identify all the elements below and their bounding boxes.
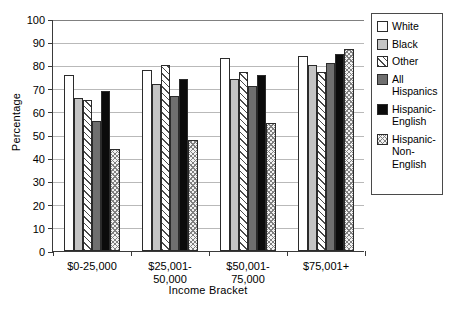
y-axis-title: Percentage — [10, 62, 22, 182]
bar — [83, 100, 92, 251]
bar — [248, 86, 257, 251]
legend-label: Hispanic- English — [392, 103, 436, 128]
bar — [344, 49, 353, 251]
y-axis-tick-label: 50 — [33, 131, 45, 142]
bar — [74, 98, 83, 251]
bar — [335, 54, 344, 251]
bar — [298, 56, 307, 251]
y-axis-tick-label: 10 — [33, 224, 45, 235]
legend-label: White — [392, 20, 419, 33]
bar-group — [53, 20, 131, 251]
y-axis-tick-label: 30 — [33, 177, 45, 188]
y-axis-tick-label: 0 — [39, 247, 45, 258]
legend-item: Other — [377, 55, 438, 68]
x-axis-tick — [287, 251, 288, 256]
legend-item: White — [377, 20, 438, 33]
bar — [230, 79, 239, 251]
bar-group — [287, 20, 365, 251]
x-axis-title: Income Bracket — [52, 284, 364, 296]
bar-chart-figure: Percentage 0102030405060708090100$0-25,0… — [0, 0, 449, 309]
y-axis-tick-label: 20 — [33, 201, 45, 212]
bar — [188, 140, 197, 251]
bar — [308, 65, 317, 251]
legend-swatch — [377, 74, 388, 85]
y-axis-tick-label: 90 — [33, 38, 45, 49]
y-axis-tick-label: 100 — [27, 15, 45, 26]
legend-swatch — [377, 39, 388, 50]
x-axis-category-label: $25,001- 50,000 — [131, 260, 209, 286]
bar — [257, 75, 266, 251]
legend: WhiteBlackOtherAll HispanicsHispanic- En… — [371, 13, 443, 195]
legend-item: Black — [377, 38, 438, 51]
y-axis-tick-label: 60 — [33, 108, 45, 119]
bar — [239, 72, 248, 251]
bar — [64, 75, 73, 251]
plot-inner: 0102030405060708090100$0-25,000$25,001- … — [53, 20, 364, 251]
bar-group — [209, 20, 287, 251]
legend-label: Hispanic- Non- English — [392, 133, 436, 171]
legend-swatch — [377, 134, 388, 145]
bar — [326, 63, 335, 251]
legend-item: Hispanic- English — [377, 103, 438, 128]
x-axis-tick — [131, 251, 132, 256]
legend-swatch — [377, 21, 388, 32]
y-axis-tick-label: 80 — [33, 61, 45, 72]
legend-label: Other — [392, 55, 418, 68]
bar — [317, 72, 326, 251]
bar-group — [131, 20, 209, 251]
x-axis-tick — [53, 251, 54, 256]
bar — [179, 79, 188, 251]
bar — [152, 84, 161, 251]
x-axis-category-label: $0-25,000 — [53, 260, 131, 273]
y-axis-tick-label: 70 — [33, 85, 45, 96]
legend-swatch — [377, 104, 388, 115]
x-axis-category-label: $75,001+ — [287, 260, 365, 273]
bar — [161, 65, 170, 251]
bar — [170, 96, 179, 251]
legend-swatch — [377, 56, 388, 67]
legend-label: Black — [392, 38, 418, 51]
bar — [92, 121, 101, 251]
bar — [101, 91, 110, 251]
x-axis-tick — [365, 251, 366, 256]
legend-label: All Hispanics — [392, 73, 438, 98]
x-axis-category-label: $50,001- 75,000 — [209, 260, 287, 286]
x-axis-tick — [209, 251, 210, 256]
y-axis-tick-label: 40 — [33, 154, 45, 165]
plot-area: 0102030405060708090100$0-25,000$25,001- … — [52, 20, 364, 252]
bar — [142, 70, 151, 251]
bar — [266, 123, 275, 251]
legend-item: All Hispanics — [377, 73, 438, 98]
bar — [220, 58, 229, 251]
legend-item: Hispanic- Non- English — [377, 133, 438, 171]
bar — [110, 149, 119, 251]
